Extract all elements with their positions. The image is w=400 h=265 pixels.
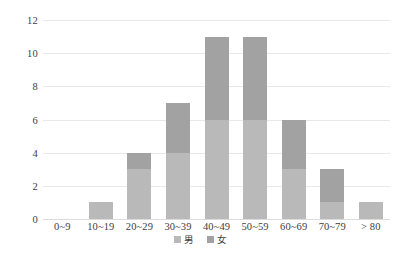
chart-legend: 男女 xyxy=(0,235,400,245)
bar-segment xyxy=(282,169,306,219)
x-axis-tick-5: 50~59 xyxy=(236,221,275,232)
bar-group-40-49 xyxy=(197,20,236,219)
legend-swatch-icon xyxy=(174,236,181,243)
bar-segment xyxy=(127,153,151,170)
plot-area xyxy=(43,20,390,219)
bar-stack xyxy=(205,37,229,219)
bar-segment xyxy=(320,202,344,219)
bar-stack xyxy=(243,37,267,219)
bar-segment xyxy=(243,120,267,220)
x-axis-tick-labels: 0~910~1920~2930~3940~4950~5960~6970~79> … xyxy=(43,221,390,232)
legend-label: 男 xyxy=(184,235,194,245)
x-axis-tick-0: 0~9 xyxy=(43,221,82,232)
bar-group-20-29 xyxy=(120,20,159,219)
bar-group-30-39 xyxy=(159,20,198,219)
y-axis-tick-0: 0 xyxy=(33,214,38,225)
y-axis-tick-4: 4 xyxy=(33,147,38,158)
bar-stack xyxy=(166,103,190,219)
bar-segment xyxy=(127,169,151,219)
age-distribution-bar-chart: 0 2 4 6 8 10 12 0~910~1920~2930~3940~495… xyxy=(0,0,400,265)
legend-swatch-icon xyxy=(207,236,214,243)
x-axis-tick-7: 70~79 xyxy=(313,221,352,232)
bar-segment xyxy=(243,37,267,120)
y-axis-tick-2: 2 xyxy=(33,180,38,191)
x-axis-tick-6: 60~69 xyxy=(274,221,313,232)
legend-item-0[interactable]: 男 xyxy=(174,235,194,245)
gridline-baseline xyxy=(43,219,390,220)
bar-group-0-9 xyxy=(43,20,82,219)
x-axis-tick-8: > 80 xyxy=(352,221,391,232)
x-axis-tick-2: 20~29 xyxy=(120,221,159,232)
x-axis-tick-1: 10~19 xyxy=(82,221,121,232)
x-axis-tick-4: 40~49 xyxy=(197,221,236,232)
legend-label: 女 xyxy=(217,235,227,245)
bar-stack xyxy=(89,202,113,219)
bar-group-50-59 xyxy=(236,20,275,219)
bar-segment xyxy=(320,169,344,202)
bar-stack xyxy=(282,120,306,220)
bar-segment xyxy=(359,202,383,219)
bar-segment xyxy=(205,120,229,220)
bar-stack xyxy=(320,169,344,219)
bar-stack xyxy=(127,153,151,219)
bar-series-container xyxy=(43,20,390,219)
y-axis-tick-12: 12 xyxy=(27,15,38,26)
y-axis-tick-8: 8 xyxy=(33,81,38,92)
bar-segment xyxy=(166,103,190,153)
bar-group-60-69 xyxy=(274,20,313,219)
bar-segment xyxy=(205,37,229,120)
bar-stack xyxy=(359,202,383,219)
figure-caption-clipped xyxy=(0,258,400,265)
bar-segment xyxy=(282,120,306,170)
bar-group-70-79 xyxy=(313,20,352,219)
bar-segment xyxy=(89,202,113,219)
y-axis-tick-6: 6 xyxy=(33,114,38,125)
bar-group-80 xyxy=(352,20,391,219)
y-axis-tick-labels: 0 2 4 6 8 10 12 xyxy=(0,20,38,219)
y-axis-tick-10: 10 xyxy=(27,48,38,59)
x-axis-tick-3: 30~39 xyxy=(159,221,198,232)
legend-item-1[interactable]: 女 xyxy=(207,235,227,245)
bar-group-10-19 xyxy=(82,20,121,219)
bar-segment xyxy=(166,153,190,219)
